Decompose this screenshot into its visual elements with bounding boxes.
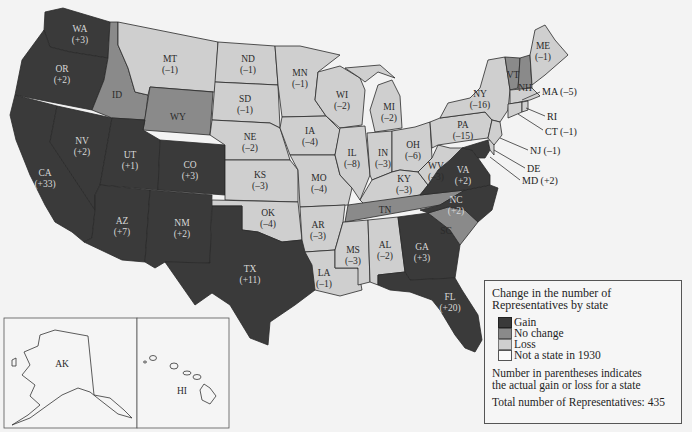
svg-text:OH(–6): OH(–6) (405, 140, 421, 162)
svg-text:MO(–4): MO(–4) (311, 173, 327, 195)
callout-ct: CT (–1) (545, 126, 577, 138)
svg-text:GA(+3): GA(+3) (414, 242, 430, 264)
svg-text:NM(+2): NM(+2) (174, 218, 190, 240)
svg-text:OK(–4): OK(–4) (260, 208, 276, 230)
svg-text:MI(–2): MI(–2) (381, 102, 397, 124)
gain-swatch (498, 317, 512, 328)
callout-ri: RI (547, 111, 557, 122)
svg-text:KS(–3): KS(–3) (252, 170, 268, 192)
legend: Change in the number of Representatives … (484, 280, 682, 424)
svg-text:NC(+2): NC(+2) (448, 195, 464, 217)
svg-text:OR(+2): OR(+2) (54, 64, 70, 86)
state-RI (522, 101, 528, 112)
legend-title-line2: Representatives by state (492, 299, 674, 311)
svg-text:NH: NH (518, 83, 532, 93)
svg-text:NE(–2): NE(–2) (242, 132, 258, 154)
svg-text:VA(+2): VA(+2) (455, 165, 471, 187)
callout-de: DE (527, 163, 540, 174)
svg-text:UT(+1): UT(+1) (122, 150, 138, 172)
legend-note: Number in parentheses indicates the actu… (492, 368, 674, 391)
inset-hi-label: HI (177, 386, 187, 396)
svg-text:AL(–2): AL(–2) (377, 240, 393, 262)
legend-items: Gain No change Loss Not a state in 1930 (498, 317, 674, 361)
svg-text:NV(+2): NV(+2) (74, 136, 90, 158)
alaska-inset: AK (4, 318, 137, 428)
svg-text:TN: TN (379, 205, 392, 215)
svg-text:ME(–1): ME(–1) (535, 41, 551, 63)
inset-ak-label: AK (55, 359, 69, 369)
state-WY (143, 87, 213, 135)
hawaii-inset: HI (137, 318, 229, 428)
svg-text:WA(+3): WA(+3) (72, 24, 88, 46)
svg-text:WI(–2): WI(–2) (334, 90, 350, 112)
svg-text:VT: VT (507, 70, 520, 80)
svg-text:ID: ID (112, 90, 122, 100)
legend-total: Total number of Representatives: 435 (492, 396, 674, 408)
svg-text:KY(–3): KY(–3) (396, 174, 412, 196)
svg-text:CO(+3): CO(+3) (182, 160, 198, 182)
callout-nj: NJ (–1) (530, 145, 560, 157)
svg-text:AR(–3): AR(–3) (310, 220, 326, 242)
svg-text:MS(–3): MS(–3) (345, 245, 361, 267)
loss-swatch (498, 339, 512, 350)
not-state-swatch (498, 350, 512, 361)
svg-text:WY: WY (170, 112, 186, 122)
svg-text:LA(–1): LA(–1) (316, 268, 332, 290)
svg-text:ND(–1): ND(–1) (240, 54, 256, 76)
svg-text:SD(–1): SD(–1) (237, 94, 253, 116)
legend-item-not-state: Not a state in 1930 (498, 350, 674, 361)
state-FL (378, 272, 482, 352)
svg-text:AZ(+7): AZ(+7) (114, 216, 130, 238)
svg-text:SC: SC (440, 226, 452, 236)
callout-ma: MA (–5) (542, 86, 577, 98)
svg-text:MT(–1): MT(–1) (162, 54, 178, 76)
callout-md: MD (+2) (522, 175, 558, 187)
svg-text:MN(–1): MN(–1) (292, 68, 308, 90)
svg-text:WV(–3): WV(–3) (428, 161, 444, 183)
no-change-swatch (498, 328, 512, 339)
